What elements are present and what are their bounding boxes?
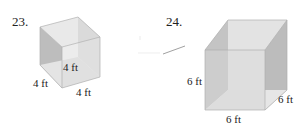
- figures-canvas: [0, 0, 299, 133]
- problem-number-23: 23.: [12, 14, 28, 30]
- cube-24-height-label: 6 ft: [187, 75, 202, 87]
- problem-number-24: 24.: [166, 14, 182, 30]
- cube-23-depth-label: 4 ft: [33, 77, 48, 89]
- stray-mark: [163, 46, 185, 54]
- cube-23: [40, 17, 100, 88]
- cube-24-width-label: 6 ft: [226, 113, 241, 125]
- cube-24-depth-label: 6 ft: [278, 93, 293, 105]
- cube-24: [205, 20, 287, 110]
- cube-23-height-label: 4 ft: [63, 61, 78, 73]
- cube-23-width-label: 4 ft: [76, 86, 91, 98]
